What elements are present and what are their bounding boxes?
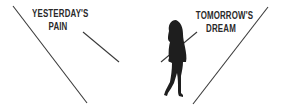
woman-silhouette-icon	[164, 20, 186, 97]
right-caption: TOMORROW'S DREAM	[196, 9, 246, 35]
right-caption-line1: TOMORROW'S	[196, 9, 246, 22]
left-caption: YESTERDAY'S PAIN	[32, 7, 84, 33]
left-caption-line2: PAIN	[32, 20, 84, 33]
left-short-line	[83, 32, 119, 62]
left-caption-line1: YESTERDAY'S	[32, 7, 84, 20]
right-caption-line2: DREAM	[196, 22, 246, 35]
